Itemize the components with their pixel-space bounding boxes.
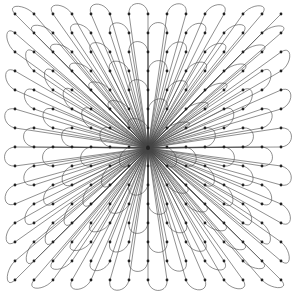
graph-node xyxy=(185,127,188,130)
graph-node xyxy=(128,51,131,54)
graph-node xyxy=(204,13,207,16)
graph-node xyxy=(147,32,150,35)
graph-node xyxy=(223,241,226,244)
graph-node xyxy=(71,184,74,187)
graph-node xyxy=(242,146,245,149)
center-hub-node xyxy=(146,146,150,150)
graph-node xyxy=(109,203,112,206)
graph-node xyxy=(223,184,226,187)
graph-node xyxy=(204,165,207,168)
graph-node xyxy=(33,260,36,263)
graph-node xyxy=(166,108,169,111)
graph-node xyxy=(128,108,131,111)
graph-node xyxy=(109,222,112,225)
graph-node xyxy=(90,165,93,168)
graph-node xyxy=(90,146,93,149)
petal-edge xyxy=(148,128,291,148)
graph-node xyxy=(14,222,17,225)
graph-node xyxy=(147,260,150,263)
graph-node xyxy=(33,146,36,149)
graph-node xyxy=(52,165,55,168)
graph-node xyxy=(242,127,245,130)
graph-node xyxy=(166,70,169,73)
graph-node xyxy=(166,203,169,206)
graph-node xyxy=(14,127,17,130)
graph-node xyxy=(71,108,74,111)
graph-node xyxy=(71,165,74,168)
graph-node xyxy=(204,260,207,263)
graph-node xyxy=(147,279,150,282)
petal-edge xyxy=(6,70,148,148)
graph-node xyxy=(14,89,17,92)
graph-node xyxy=(261,203,264,206)
graph-node xyxy=(52,146,55,149)
graph-node xyxy=(280,260,283,263)
graph-node xyxy=(223,222,226,225)
graph-node xyxy=(242,32,245,35)
graph-node xyxy=(52,184,55,187)
graph-node xyxy=(166,222,169,225)
graph-node xyxy=(109,279,112,282)
graph-node xyxy=(14,13,17,16)
graph-node xyxy=(90,203,93,206)
graph-node xyxy=(204,279,207,282)
graph-node xyxy=(71,51,74,54)
graph-node xyxy=(204,184,207,187)
graph-node xyxy=(223,89,226,92)
graph-node xyxy=(33,70,36,73)
graph-node xyxy=(52,241,55,244)
graph-node xyxy=(261,184,264,187)
graph-node xyxy=(242,260,245,263)
graph-node xyxy=(14,51,17,54)
graph-node xyxy=(185,89,188,92)
graph-node xyxy=(90,241,93,244)
graph-node xyxy=(242,203,245,206)
graph-node xyxy=(242,222,245,225)
graph-node xyxy=(90,89,93,92)
graph-node xyxy=(71,222,74,225)
graph-node xyxy=(166,127,169,130)
graph-node xyxy=(109,241,112,244)
graph-node xyxy=(71,146,74,149)
graph-node xyxy=(128,260,131,263)
graph-node xyxy=(204,108,207,111)
graph-node xyxy=(147,184,150,187)
graph-node xyxy=(147,127,150,130)
graph-node xyxy=(147,165,150,168)
graph-node xyxy=(90,32,93,35)
graph-node xyxy=(185,146,188,149)
graph-node xyxy=(14,203,17,206)
graph-node xyxy=(185,51,188,54)
graph-node xyxy=(185,165,188,168)
graph-node xyxy=(14,165,17,168)
graph-node xyxy=(261,222,264,225)
graph-node xyxy=(128,127,131,130)
graph-node xyxy=(90,184,93,187)
graph-node xyxy=(52,127,55,130)
graph-node xyxy=(14,32,17,35)
graph-node xyxy=(280,203,283,206)
graph-node xyxy=(128,146,131,149)
graph-node xyxy=(223,165,226,168)
graph-node xyxy=(242,279,245,282)
graph-node xyxy=(261,51,264,54)
graph-node xyxy=(33,222,36,225)
graph-node xyxy=(14,279,17,282)
graph-node xyxy=(33,32,36,35)
graph-node xyxy=(90,70,93,73)
graph-node xyxy=(109,13,112,16)
graph-node xyxy=(33,203,36,206)
graph-node xyxy=(71,70,74,73)
graph-node xyxy=(109,89,112,92)
graph-node xyxy=(204,203,207,206)
graph-node xyxy=(185,279,188,282)
graph-node xyxy=(223,13,226,16)
graph-node xyxy=(128,222,131,225)
graph-node xyxy=(147,51,150,54)
graph-node xyxy=(166,241,169,244)
graph-node xyxy=(166,279,169,282)
graph-node xyxy=(14,241,17,244)
graph-node xyxy=(223,127,226,130)
graph-node xyxy=(90,108,93,111)
graph-node xyxy=(204,241,207,244)
